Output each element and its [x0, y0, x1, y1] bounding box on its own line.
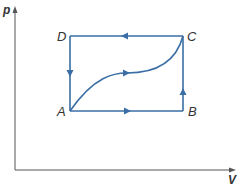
arrow-down-icon [67, 70, 74, 77]
x-axis-label: V [228, 173, 237, 186]
y-axis-arrow-icon [13, 6, 18, 13]
axes: p V [2, 3, 237, 186]
point-label-a: A [56, 104, 66, 119]
point-label-c: C [187, 29, 197, 44]
direction-arrows [67, 33, 187, 115]
y-axis-label: p [2, 3, 10, 17]
arrow-up-icon [180, 88, 187, 95]
arrow-left-icon [121, 33, 128, 40]
arrow-right-icon [124, 108, 131, 115]
x-axis-arrow-icon [229, 168, 236, 173]
arrow-curve-icon [123, 70, 130, 77]
point-label-d: D [57, 29, 66, 44]
pv-diagram: p V A B C D [0, 0, 241, 186]
point-label-b: B [188, 104, 197, 119]
